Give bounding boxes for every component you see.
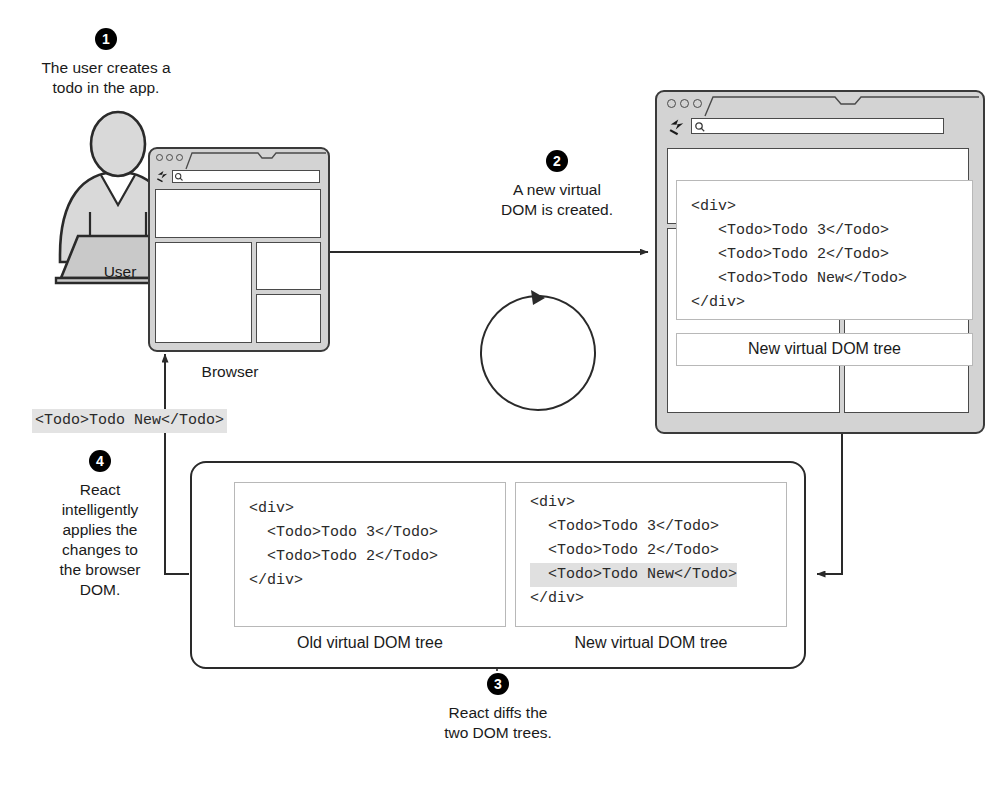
- code-line: <div>: [530, 491, 737, 515]
- browser-tab-icon: [657, 92, 983, 118]
- browser-window-step1[interactable]: [148, 147, 330, 352]
- code-line: <Todo>Todo 2</Todo>: [530, 539, 737, 563]
- window-minimize-dot[interactable]: [680, 99, 689, 108]
- content-pane-main: [155, 242, 252, 343]
- window-minimize-dot[interactable]: [166, 154, 173, 161]
- step-text-4: React intelligently applies the changes …: [20, 480, 180, 600]
- cycle-arrow-icon: [481, 290, 595, 410]
- code-line: <Todo>Todo 3</Todo>: [249, 521, 438, 545]
- content-pane-side-top: [256, 242, 321, 290]
- window-maximize-dot[interactable]: [693, 99, 702, 108]
- code-line: </div>: [530, 587, 737, 611]
- browser-label: Browser: [170, 362, 290, 382]
- old-vdom-tree-caption: Old virtual DOM tree: [234, 634, 506, 652]
- step-badge-4: 4: [89, 450, 111, 472]
- search-icon: [694, 121, 706, 133]
- reload-icon[interactable]: [667, 117, 687, 137]
- window-controls[interactable]: [667, 99, 702, 108]
- code-line-highlighted: <Todo>Todo New</Todo>: [530, 563, 737, 587]
- new-vdom-tree-caption-box: New virtual DOM tree: [676, 333, 973, 366]
- patch-snippet: <Todo>Todo New</Todo>: [32, 409, 227, 433]
- window-close-dot[interactable]: [667, 99, 676, 108]
- code-line: <Todo>Todo 3</Todo>: [530, 515, 737, 539]
- new-vdom-tree-caption: New virtual DOM tree: [677, 340, 972, 358]
- code-line: <Todo>Todo 2</Todo>: [249, 545, 438, 569]
- step-badge-2: 2: [546, 150, 568, 172]
- search-icon: [174, 172, 184, 182]
- step-text-1: The user creates a todo in the app.: [22, 58, 190, 98]
- step-text-2: A new virtual DOM is created.: [477, 180, 637, 220]
- content-pane-top: [155, 189, 321, 238]
- virtual-dom-code-overlay: <div> <Todo>Todo 3</Todo> <Todo>Todo 2</…: [676, 180, 973, 320]
- code-line: <div>: [249, 497, 438, 521]
- window-maximize-dot[interactable]: [176, 154, 183, 161]
- arrow-step2-to-diff: [817, 434, 842, 574]
- browser-url-bar[interactable]: [691, 118, 944, 134]
- new-vdom-tree-box: <div> <Todo>Todo 3</Todo> <Todo>Todo 2</…: [515, 482, 787, 627]
- step-badge-3: 3: [487, 673, 509, 695]
- browser-url-bar[interactable]: [172, 170, 320, 183]
- content-pane-side-bottom: [256, 294, 321, 343]
- diagram-canvas: 1 The user creates a todo in the app. Us…: [0, 0, 996, 801]
- step-text-3: React diffs the two DOM trees.: [418, 703, 578, 743]
- window-close-dot[interactable]: [156, 154, 163, 161]
- old-vdom-tree-box: <div> <Todo>Todo 3</Todo> <Todo>Todo 2</…: [234, 482, 506, 627]
- code-line: </div>: [249, 569, 438, 593]
- virtual-dom-code: <div> <Todo>Todo 3</Todo> <Todo>Todo 2</…: [691, 195, 907, 315]
- window-controls[interactable]: [156, 154, 183, 161]
- step-badge-1: 1: [95, 28, 117, 50]
- new-vdom-tree-caption-diff: New virtual DOM tree: [515, 634, 787, 652]
- reload-icon[interactable]: [155, 169, 170, 184]
